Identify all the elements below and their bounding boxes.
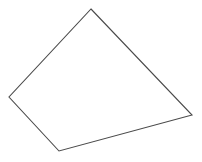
quadrilateral-shape: [9, 9, 192, 151]
quadrilateral-figure: [0, 0, 202, 162]
drawing-canvas: [0, 0, 202, 162]
